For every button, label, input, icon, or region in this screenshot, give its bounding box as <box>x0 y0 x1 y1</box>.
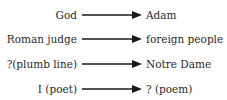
arrow-right-icon <box>82 60 142 68</box>
target-label: Notre Dame <box>146 57 211 71</box>
target-label: ? (poem) <box>146 82 192 96</box>
arrow-right-icon <box>82 11 142 19</box>
source-label: ?(plumb line) <box>7 57 77 71</box>
source-label: Roman judge <box>7 32 77 46</box>
mapping-row: God Adam <box>0 8 227 22</box>
arrow-right-icon <box>82 35 142 43</box>
arrow-right-icon <box>82 85 142 93</box>
mapping-row: ?(plumb line) Notre Dame <box>0 57 227 71</box>
mapping-row: I (poet) ? (poem) <box>0 82 227 96</box>
source-label: God <box>56 8 77 22</box>
source-label: I (poet) <box>38 82 77 96</box>
target-label: foreign people <box>146 32 223 46</box>
target-label: Adam <box>146 8 177 22</box>
mapping-row: Roman judge foreign people <box>0 32 227 46</box>
